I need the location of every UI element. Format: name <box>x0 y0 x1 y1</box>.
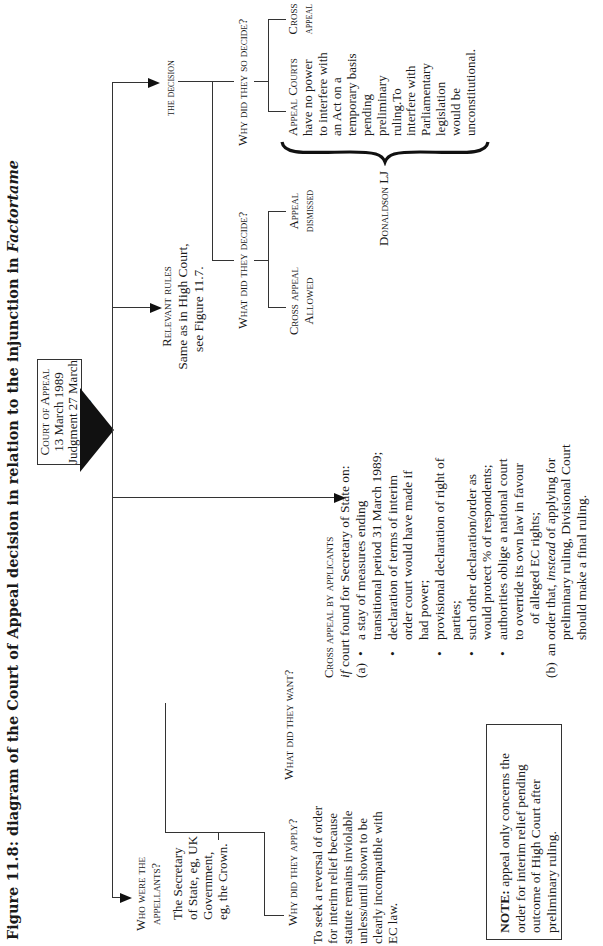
big-down-arrow-icon <box>80 388 114 472</box>
outcomes-split <box>268 212 269 308</box>
note-label: NOTE: <box>497 890 512 933</box>
decision-split <box>212 81 213 261</box>
why-apply-horizontal <box>264 832 265 916</box>
appellants-sub-connector <box>218 832 219 840</box>
part-a-list: a stay of measures endingtransitional pe… <box>353 378 543 660</box>
branch-cross-appeal-line <box>112 497 334 498</box>
branch-relevant-rules-line <box>112 307 152 308</box>
relevant-rules-line: see Figure 11.7. <box>191 239 207 374</box>
note-text: NOTE: appeal only concerns the order for… <box>487 725 559 939</box>
why-apply-drop <box>264 915 284 916</box>
relevant-rules-heading: Relevant rules <box>160 239 175 374</box>
reason-appeal-courts: Appeal Courts have no power to interfere… <box>286 49 478 136</box>
reason-2-drop <box>268 19 286 20</box>
why-decide-drop <box>212 81 234 82</box>
why-decide-heading: Why did they so decide? <box>236 19 251 146</box>
branch-decision-horizontal <box>112 83 113 246</box>
court-box-heading: Court of Appeal <box>38 360 52 464</box>
figure-title-case-name: Factortame <box>4 160 21 252</box>
why-apply-vertical <box>219 832 264 833</box>
reason-1-drop <box>268 111 286 112</box>
decision-heading: the decision <box>163 60 178 116</box>
cross-appeal-part-a: (a) a stay of measures endingtransitiona… <box>353 378 543 678</box>
arrow-down-icon <box>120 893 132 903</box>
main-branch-line <box>112 245 113 898</box>
outcome-1-drop <box>268 307 286 308</box>
arrow-down-icon <box>148 78 160 88</box>
reasons-split <box>268 20 269 112</box>
cross-appeal-intro: if court found for Secretary of State on… <box>337 378 353 678</box>
appellants-body: The Secretary of State, eg, UK Governmen… <box>170 810 230 920</box>
what-want-connector <box>165 703 166 833</box>
court-box-hearing-date: 13 March 1989 <box>52 360 66 464</box>
reason-cross-appeal: Cross appeal <box>286 0 316 40</box>
diagram-canvas: Figure 11.8: diagram of the Court of App… <box>0 0 603 946</box>
part-a-label: (a) <box>353 663 369 678</box>
cross-appeal-heading: Cross appeal by applicants <box>322 378 337 678</box>
list-item: authorities oblige a national courtto ov… <box>495 378 542 660</box>
why-apply-body: To seek a reversal of order for interim … <box>310 806 400 944</box>
part-b-label: (b) <box>543 662 559 678</box>
cross-appeal-block: Cross appeal by applicants if court foun… <box>322 378 590 678</box>
reasons-stem <box>254 81 268 82</box>
figure-title-text: Figure 11.8: diagram of the Court of App… <box>4 252 21 940</box>
list-item: provisional declaration of right ofparti… <box>432 378 464 660</box>
what-decide-drop <box>212 260 234 261</box>
brace-icon <box>280 138 490 166</box>
outcome-appeal-dismissed: Appeal dismissed <box>287 176 317 246</box>
outcome-cross-appeal-allowed: Cross appeal Allowed <box>287 261 317 341</box>
why-apply-heading: Why did they apply? <box>286 819 301 926</box>
outcomes-stem <box>254 260 268 261</box>
appellants-sub-vertical <box>165 832 219 833</box>
outcome-2-drop <box>268 211 286 212</box>
list-item: declaration of terms of interimorder cou… <box>385 378 432 660</box>
what-decide-heading: What did they decide? <box>236 212 251 329</box>
cross-appeal-part-b: (b) an order that, instead of applying f… <box>543 378 590 678</box>
figure-title: Figure 11.8: diagram of the Court of App… <box>4 160 21 940</box>
court-of-appeal-box: Court of Appeal 13 March 1989 Judgment 2… <box>37 359 82 465</box>
relevant-rules-block: Relevant rules Same as in High Court, se… <box>160 239 207 374</box>
judge-name: Donaldson LJ <box>376 171 391 246</box>
appellants-heading: Who were the appellants? <box>134 854 164 934</box>
what-want-heading: What did they want? <box>282 670 297 780</box>
decision-stem <box>178 81 212 82</box>
list-item: such other declaration/order aswould pro… <box>464 378 496 660</box>
note-box: NOTE: appeal only concerns the order for… <box>486 724 562 940</box>
branch-decision-line <box>112 82 150 83</box>
list-item: a stay of measures endingtransitional pe… <box>353 378 385 660</box>
relevant-rules-line: Same as in High Court, <box>175 239 191 374</box>
